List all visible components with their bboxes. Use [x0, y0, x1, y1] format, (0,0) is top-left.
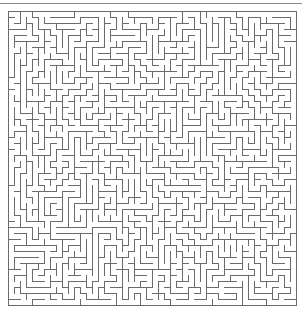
- top-divider-rule: [0, 3, 302, 4]
- maze-page: [0, 0, 302, 318]
- maze-grid: [8, 11, 297, 306]
- maze-container: [8, 11, 297, 306]
